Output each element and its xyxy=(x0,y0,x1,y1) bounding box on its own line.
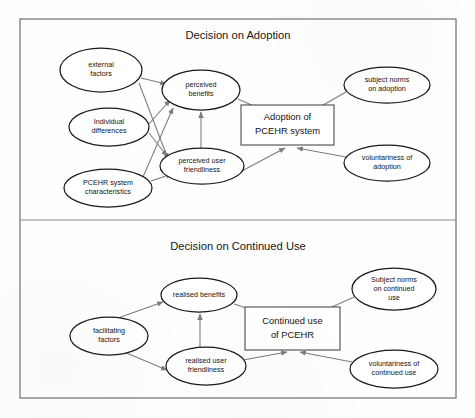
node-realised-user-friendliness[interactable]: realised userfriendliness xyxy=(166,347,246,385)
node-pcehr-system-characteristics[interactable]: PCEHR systemcharacteristics xyxy=(64,169,152,207)
node-label-perceived-benefits: benefits xyxy=(188,89,214,98)
node-voluntariness-of-adoption[interactable]: voluntariness ofadoption xyxy=(344,145,430,181)
node-realised-benefits[interactable]: realised benefits xyxy=(161,278,237,312)
node-label-continued-use-of-pcehr: of PCEHR xyxy=(271,329,314,340)
node-label-perceived-benefits: perceived xyxy=(185,80,216,89)
node-label-adoption-of-pcehr-system: PCEHR system xyxy=(255,125,320,136)
node-voluntariness-of-continued-use[interactable]: voluntariness ofcontinued use xyxy=(350,350,438,388)
edge-voluntariness-to-adoption xyxy=(297,148,346,157)
diagram-canvas: externalfactorsIndividualdifferencesPCEH… xyxy=(0,0,475,418)
node-label-continued-use-of-pcehr: Continued use xyxy=(262,315,322,326)
node-adoption-of-pcehr-system[interactable]: Adoption ofPCEHR system xyxy=(241,105,334,145)
node-label-facilitating-factors: facilitating xyxy=(93,326,125,335)
node-label-facilitating-factors: factors xyxy=(98,335,120,344)
node-external-factors[interactable]: externalfactors xyxy=(60,48,142,92)
edge-external-factors-to-perceived-benefits xyxy=(141,78,166,84)
node-label-voluntariness-of-continued-use: continued use xyxy=(372,368,417,377)
node-label-realised-benefits: realised benefits xyxy=(173,290,226,299)
node-label-perceived-user-friendliness: friendliness xyxy=(184,165,221,174)
panel-title-continued-use: Decision on Continued Use xyxy=(170,240,306,252)
node-label-external-factors: external xyxy=(88,60,114,69)
node-continued-use-of-pcehr[interactable]: Continued useof PCEHR xyxy=(245,307,340,350)
node-label-external-factors: factors xyxy=(90,69,112,78)
node-label-voluntariness-of-adoption: voluntariness of xyxy=(362,153,412,162)
edge-voluntariness-continued-to-continued-use xyxy=(300,352,352,362)
node-perceived-benefits[interactable]: perceivedbenefits xyxy=(162,70,240,110)
node-label-perceived-user-friendliness: perceived user xyxy=(178,156,226,165)
node-label-voluntariness-of-continued-use: voluntariness of xyxy=(369,359,419,368)
node-label-pcehr-system-characteristics: PCEHR system xyxy=(83,178,133,187)
node-individual-differences[interactable]: Individualdifferences xyxy=(69,108,149,146)
panel-title-adoption: Decision on Adoption xyxy=(185,29,290,41)
node-label-voluntariness-of-adoption: adoption xyxy=(373,162,401,171)
node-label-individual-differences: differences xyxy=(91,126,126,135)
edge-individual-differences-to-perceived-user-friendliness xyxy=(149,133,167,156)
node-subject-norms-on-continued-use[interactable]: Subject normson continueduse xyxy=(352,268,436,310)
node-label-realised-user-friendliness: friendliness xyxy=(188,365,225,374)
node-label-subject-norms-on-continued-use: Subject norms xyxy=(371,275,417,284)
node-perceived-user-friendliness[interactable]: perceived userfriendliness xyxy=(160,148,244,184)
node-label-subject-norms-on-adoption: subject norms xyxy=(365,75,410,84)
node-label-individual-differences: Individual xyxy=(94,117,125,126)
edge-facilitating-factors-to-realised-benefits xyxy=(118,302,163,318)
node-label-subject-norms-on-continued-use: on continued xyxy=(373,284,414,293)
node-label-subject-norms-on-continued-use: use xyxy=(388,293,400,302)
node-facilitating-factors[interactable]: facilitatingfactors xyxy=(70,317,148,355)
node-layer: externalfactorsIndividualdifferencesPCEH… xyxy=(60,48,438,388)
edge-individual-differences-to-perceived-benefits xyxy=(149,100,170,124)
node-label-adoption-of-pcehr-system: Adoption of xyxy=(264,111,312,122)
diagram-root: externalfactorsIndividualdifferencesPCEH… xyxy=(0,0,475,418)
node-subject-norms-on-adoption[interactable]: subject normson adoption xyxy=(344,67,430,103)
node-label-realised-user-friendliness: realised user xyxy=(185,356,227,365)
node-label-subject-norms-on-adoption: on adoption xyxy=(368,84,406,93)
node-label-pcehr-system-characteristics: characteristics xyxy=(85,187,131,196)
edge-perceived-user-friendliness-to-adoption xyxy=(240,148,285,172)
edge-facilitating-factors-to-realised-user-friendliness xyxy=(124,352,167,370)
edge-realised-user-friendliness-to-continued-use xyxy=(243,352,287,360)
